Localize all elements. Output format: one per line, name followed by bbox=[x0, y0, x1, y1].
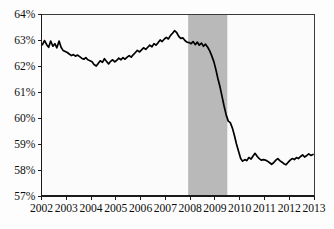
x-axis-tick-labels: 2002200320042005200620072008200920102011… bbox=[30, 202, 326, 215]
x-tick-label: 2005 bbox=[104, 202, 127, 215]
y-tick-label: 61% bbox=[14, 86, 36, 99]
recession-shading-band bbox=[188, 14, 227, 196]
x-tick-label: 2013 bbox=[302, 202, 325, 215]
x-tick-label: 2010 bbox=[228, 202, 251, 215]
x-tick-label: 2002 bbox=[30, 202, 53, 215]
x-tick-label: 2006 bbox=[129, 202, 152, 215]
plot-background bbox=[42, 14, 315, 196]
y-axis-tick-labels: 64%63%62%61%60%59%58%57% bbox=[14, 8, 36, 203]
y-tick-label: 63% bbox=[14, 34, 36, 47]
line-chart-canvas: 64%63%62%61%60%59%58%57% 200220032004200… bbox=[0, 0, 334, 229]
y-tick-label: 59% bbox=[14, 138, 36, 151]
y-tick-label: 60% bbox=[14, 112, 36, 125]
x-tick-label: 2008 bbox=[179, 202, 202, 215]
y-tick-label: 64% bbox=[14, 8, 36, 21]
chart-figure: 64%63%62%61%60%59%58%57% 200220032004200… bbox=[0, 0, 334, 229]
x-tick-label: 2011 bbox=[253, 202, 276, 215]
x-tick-label: 2012 bbox=[278, 202, 301, 215]
y-tick-label: 62% bbox=[14, 60, 36, 73]
x-tick-label: 2007 bbox=[154, 202, 177, 215]
x-tick-label: 2004 bbox=[79, 202, 102, 215]
x-tick-label: 2003 bbox=[55, 202, 78, 215]
x-tick-label: 2009 bbox=[203, 202, 226, 215]
y-tick-label: 58% bbox=[14, 164, 36, 177]
